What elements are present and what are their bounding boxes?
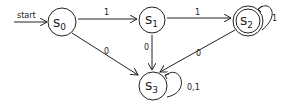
svg-text:1: 1 <box>272 14 277 23</box>
svg-text:0: 0 <box>144 43 149 52</box>
state-s3: s3 <box>139 72 167 100</box>
state-s2-accepting: s2 <box>233 6 263 36</box>
svg-text:0: 0 <box>104 47 109 56</box>
transition-s0-s3: 0 <box>72 33 138 75</box>
svg-text:0: 0 <box>196 49 201 58</box>
transition-s0-s1: 1 <box>78 8 137 19</box>
svg-text:1: 1 <box>195 8 200 17</box>
fsa-diagram: start s0 s1 s2 s3 1 0 1 0 1 0 <box>0 0 290 105</box>
start-arrow: start <box>14 11 47 22</box>
state-s0: s0 <box>48 8 76 36</box>
state-s1: s1 <box>139 7 165 33</box>
transition-s3-s3-loop: 0,1 <box>165 72 200 97</box>
svg-text:0,1: 0,1 <box>187 83 200 92</box>
transition-s1-s3: 0 <box>144 35 152 70</box>
transition-s1-s2: 1 <box>167 8 231 18</box>
svg-text:1: 1 <box>104 8 109 17</box>
start-label: start <box>17 11 36 20</box>
transition-s2-s3: 0 <box>160 30 235 72</box>
